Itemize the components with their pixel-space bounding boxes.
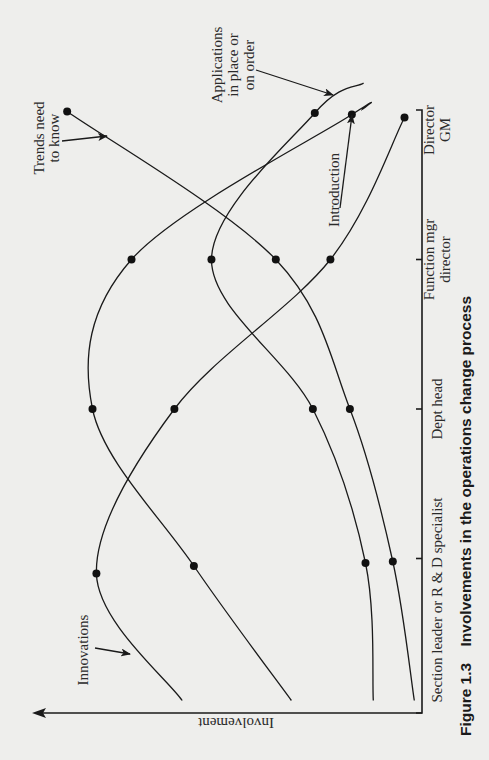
- data-point: [190, 562, 198, 570]
- caption-number: Figure 1.3: [457, 662, 474, 736]
- category-labels: Section leader or R & D specialistDept h…: [421, 105, 453, 702]
- data-point: [272, 256, 280, 264]
- level-axis-ticks: [416, 260, 422, 559]
- data-point: [170, 405, 178, 413]
- svg-text:Figure 1.3 Involvements: Figure 1.3 Involvements in the operation…: [457, 296, 474, 736]
- data-point: [92, 569, 100, 577]
- label-applications-line2: in place or: [225, 33, 241, 96]
- data-point: [207, 256, 215, 264]
- level-axis: [416, 110, 422, 713]
- data-point: [346, 405, 354, 413]
- label-trends-line2: to know: [46, 113, 62, 162]
- category-label: Section leader or R & D specialist: [429, 497, 445, 703]
- data-point: [128, 256, 136, 264]
- data-point: [362, 559, 370, 567]
- innovations-arrow-icon: [95, 648, 130, 654]
- category-label: director: [437, 236, 453, 283]
- category-label: Director: [421, 105, 437, 155]
- category-label: GM: [437, 118, 453, 142]
- label-applications-line3: on order: [241, 40, 257, 90]
- data-point: [63, 107, 71, 115]
- ylabel-involvement: Involvement: [197, 715, 274, 731]
- applications-arrow-icon: [256, 70, 333, 95]
- trends-arrow-icon: [62, 136, 107, 141]
- data-point: [311, 109, 319, 117]
- category-label: Dept head: [429, 378, 445, 440]
- label-innovations: Innovations: [75, 614, 91, 685]
- category-label: Function mgr: [421, 219, 437, 300]
- label-applications-line1: Applications: [209, 27, 225, 104]
- series-line-innovations: [96, 118, 404, 701]
- series-curves: [63, 83, 414, 700]
- data-point: [309, 405, 317, 413]
- data-point: [401, 113, 409, 121]
- label-trends-line1: Trends need: [31, 101, 47, 175]
- caption-text: Involvements in the operations change pr…: [457, 296, 474, 647]
- figure-caption: Figure 1.3 Involvements in the operation…: [457, 296, 474, 736]
- series-line-applications-in-place-or-on-order: [211, 83, 373, 700]
- series-line-trends-need-to-know: [67, 112, 414, 701]
- data-point: [326, 256, 334, 264]
- data-point: [89, 405, 97, 413]
- chart: Section leader or R & D specialistDept h…: [0, 0, 489, 760]
- data-point: [389, 557, 397, 565]
- label-introduction: Introduction: [326, 152, 342, 227]
